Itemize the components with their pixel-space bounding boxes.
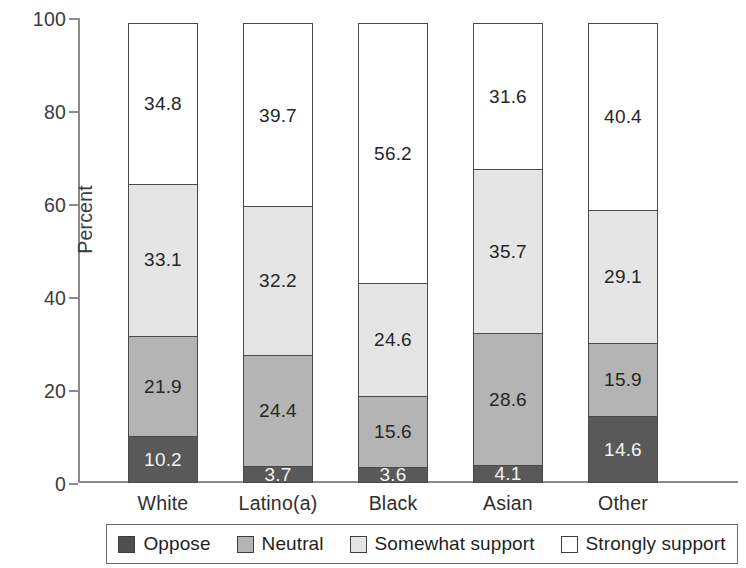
x-axis-category-label: Latino(a): [239, 492, 318, 515]
segment-value-label: 39.7: [259, 106, 297, 125]
bar-segment-strongly[interactable]: 40.4: [588, 23, 658, 211]
legend-item-oppose[interactable]: Oppose: [118, 533, 210, 555]
legend-swatch-neutral: [237, 536, 254, 553]
bar-segment-oppose[interactable]: 4.1: [473, 464, 543, 483]
bar-segment-strongly[interactable]: 31.6: [473, 23, 543, 170]
bar-segment-somewhat[interactable]: 29.1: [588, 209, 658, 344]
legend-swatch-oppose: [118, 536, 135, 553]
segment-value-label: 21.9: [144, 377, 182, 396]
stacked-bar: 3.724.432.239.7: [243, 18, 313, 483]
stacked-bar: 14.615.929.140.4: [588, 18, 658, 483]
legend-label: Strongly support: [586, 533, 726, 555]
y-tick-label: 100: [33, 8, 66, 31]
bar-segment-neutral[interactable]: 21.9: [128, 335, 198, 437]
segment-value-label: 56.2: [374, 144, 412, 163]
legend-label: Neutral: [262, 533, 324, 555]
y-tick-label: 40: [44, 287, 66, 310]
chart-legend: OpposeNeutralSomewhat supportStrongly su…: [106, 524, 738, 564]
bar-segment-strongly[interactable]: 56.2: [358, 23, 428, 284]
segment-value-label: 34.8: [144, 94, 182, 113]
segment-value-label: 14.6: [604, 440, 642, 459]
stacked-bar: 10.221.933.134.8: [128, 18, 198, 483]
bar-segment-oppose[interactable]: 3.7: [243, 466, 313, 483]
segment-value-label: 15.6: [374, 422, 412, 441]
segment-value-label: 15.9: [604, 370, 642, 389]
bar-group-white[interactable]: 10.221.933.134.8White: [128, 18, 198, 483]
x-axis-category-label: Black: [369, 492, 418, 515]
segment-value-label: 3.7: [264, 465, 291, 484]
segment-value-label: 35.7: [489, 242, 527, 261]
segment-value-label: 24.6: [374, 330, 412, 349]
legend-label: Somewhat support: [375, 533, 535, 555]
segment-value-label: 10.2: [144, 450, 182, 469]
y-tick-label: 60: [44, 194, 66, 217]
bar-segment-somewhat[interactable]: 24.6: [358, 283, 428, 397]
segment-value-label: 29.1: [604, 267, 642, 286]
bar-segment-strongly[interactable]: 34.8: [128, 23, 198, 185]
stacked-bar: 3.615.624.656.2: [358, 18, 428, 483]
bar-segment-strongly[interactable]: 39.7: [243, 23, 313, 208]
segment-value-label: 24.4: [259, 401, 297, 420]
bar-segment-somewhat[interactable]: 35.7: [473, 168, 543, 334]
bar-group-latino-a[interactable]: 3.724.432.239.7Latino(a): [243, 18, 313, 483]
y-tick-mark: [69, 111, 78, 113]
legend-label: Oppose: [143, 533, 210, 555]
bar-segment-somewhat[interactable]: 32.2: [243, 206, 313, 356]
bar-segment-neutral[interactable]: 28.6: [473, 333, 543, 466]
plot-area: 020406080100 Percent 10.221.933.134.8Whi…: [78, 18, 738, 483]
legend-item-neutral[interactable]: Neutral: [237, 533, 324, 555]
bar-group-asian[interactable]: 4.128.635.731.6Asian: [473, 18, 543, 483]
bar-segment-oppose[interactable]: 10.2: [128, 436, 198, 483]
y-tick-mark: [69, 297, 78, 299]
legend-item-strongly[interactable]: Strongly support: [561, 533, 726, 555]
segment-value-label: 32.2: [259, 271, 297, 290]
x-axis-category-label: Asian: [483, 492, 533, 515]
bar-segment-neutral[interactable]: 15.9: [588, 343, 658, 417]
bar-segment-neutral[interactable]: 24.4: [243, 354, 313, 467]
y-tick-mark: [69, 390, 78, 392]
segment-value-label: 28.6: [489, 390, 527, 409]
segment-value-label: 31.6: [489, 87, 527, 106]
bar-segment-somewhat[interactable]: 33.1: [128, 183, 198, 337]
y-tick-mark: [69, 18, 78, 20]
x-axis-category-label: White: [138, 492, 189, 515]
stacked-bar-chart-figure: 020406080100 Percent 10.221.933.134.8Whi…: [0, 0, 746, 568]
y-tick-mark: [69, 483, 78, 485]
segment-value-label: 33.1: [144, 250, 182, 269]
y-tick-label: 80: [44, 101, 66, 124]
segment-value-label: 3.6: [379, 465, 406, 484]
bar-segment-neutral[interactable]: 15.6: [358, 395, 428, 468]
x-axis-category-label: Other: [598, 492, 648, 515]
bars-container: 10.221.933.134.8White3.724.432.239.7Lati…: [78, 18, 738, 483]
segment-value-label: 40.4: [604, 107, 642, 126]
bar-group-other[interactable]: 14.615.929.140.4Other: [588, 18, 658, 483]
bar-segment-oppose[interactable]: 3.6: [358, 466, 428, 483]
bar-segment-oppose[interactable]: 14.6: [588, 415, 658, 483]
legend-swatch-somewhat: [350, 536, 367, 553]
bar-group-black[interactable]: 3.615.624.656.2Black: [358, 18, 428, 483]
y-tick-label: 20: [44, 380, 66, 403]
stacked-bar: 4.128.635.731.6: [473, 18, 543, 483]
legend-item-somewhat[interactable]: Somewhat support: [350, 533, 535, 555]
y-tick-label: 0: [55, 473, 66, 496]
segment-value-label: 4.1: [494, 464, 521, 483]
legend-swatch-strongly: [561, 536, 578, 553]
